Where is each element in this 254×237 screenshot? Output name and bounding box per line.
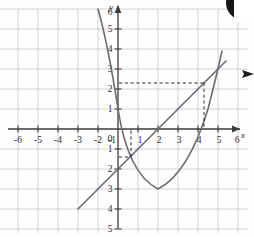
dashed-guides: [119, 83, 204, 157]
right-pointer-arrow-icon: [238, 68, 254, 80]
x-axis-arrow: [232, 126, 240, 133]
x-tick-labels: -6 -5 -4 -3 -2 -1 1 2 3 4 5 6: [14, 135, 240, 145]
graph-figure: -6 -5 -4 -3 -2 -1 1 2 3 4 5 6 1 2 3 4 5 …: [0, 0, 254, 237]
x-tick-label: -3: [74, 135, 82, 145]
y-tick-label: 5: [108, 224, 113, 234]
y-axis-label: y: [108, 2, 113, 12]
y-tick-label: 1: [108, 104, 113, 114]
y-tick-label: 2: [108, 84, 113, 94]
x-axis-label: x: [240, 130, 245, 140]
y-tick-label: 4: [108, 204, 113, 214]
y-tick-label: 1: [108, 144, 113, 154]
y-tick-label: 3: [108, 184, 113, 194]
grid-lines: [0, 9, 248, 233]
x-tick-label: 2: [157, 135, 162, 145]
x-tick-label: 3: [177, 135, 182, 145]
origin-label: 0: [108, 133, 113, 144]
x-tick-label: -4: [54, 135, 62, 145]
y-tick-labels: 1 2 3 4 5 6 1 2 3 4 5: [108, 7, 113, 234]
coordinate-plane-svg: -6 -5 -4 -3 -2 -1 1 2 3 4 5 6 1 2 3 4 5 …: [0, 0, 254, 237]
x-tick-label: -2: [94, 135, 102, 145]
x-tick-label: -5: [34, 135, 42, 145]
x-tick-label: 1: [138, 135, 143, 145]
y-tick-label: 5: [108, 24, 113, 34]
y-tick-label: 2: [108, 164, 113, 174]
parabola-curve: [98, 9, 222, 189]
x-tick-label: 5: [217, 135, 222, 145]
x-tick-label: 6: [235, 135, 240, 145]
x-tick-label: -6: [14, 135, 22, 145]
